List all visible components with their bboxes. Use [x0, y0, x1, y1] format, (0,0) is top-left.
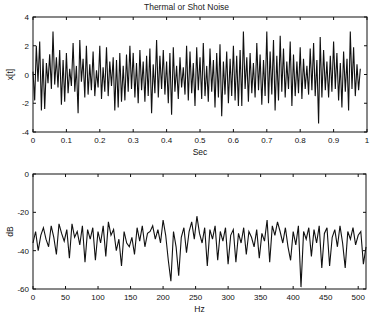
x-tick-label: 0.9	[328, 136, 340, 145]
x-tick-label: 300	[221, 293, 235, 302]
y-tick-label: -2	[22, 99, 30, 108]
x-tick-label: 250	[189, 293, 203, 302]
data-line	[33, 31, 360, 123]
x-tick-label: 350	[254, 293, 268, 302]
x-tick-label: 0	[31, 136, 36, 145]
x-tick-label: 1	[365, 136, 370, 145]
y-tick-label: -40	[17, 247, 29, 256]
frequency-domain-plot: 0501001502002503003504004505000-20-40-60…	[5, 170, 366, 314]
x-axis-label: Hz	[194, 304, 204, 314]
x-tick-label: 0.7	[261, 136, 273, 145]
y-axis-label: dB	[5, 226, 15, 237]
y-tick-label: 4	[25, 13, 30, 22]
x-tick-label: 100	[91, 293, 105, 302]
y-tick-label: 0	[25, 170, 30, 179]
y-tick-label: 0	[25, 71, 30, 80]
x-tick-label: 500	[352, 293, 366, 302]
x-tick-label: 450	[319, 293, 333, 302]
x-tick-label: 0.3	[128, 136, 140, 145]
y-axis-label: x[t]	[5, 69, 15, 80]
x-tick-label: 0.8	[295, 136, 307, 145]
y-tick-label: -60	[17, 285, 29, 294]
chart-canvas: 00.10.20.30.40.50.60.70.80.91420-2-4Secx…	[0, 0, 373, 326]
x-tick-label: 50	[61, 293, 70, 302]
y-tick-label: -4	[22, 128, 30, 137]
x-tick-label: 400	[286, 293, 300, 302]
data-line	[33, 216, 366, 287]
x-tick-label: 0.5	[194, 136, 206, 145]
x-tick-label: 0.6	[228, 136, 240, 145]
x-axis-label: Sec	[193, 147, 208, 157]
y-tick-label: -20	[17, 208, 29, 217]
y-tick-label: 2	[25, 42, 30, 51]
x-tick-label: 200	[156, 293, 170, 302]
x-tick-label: 0	[31, 293, 36, 302]
x-tick-label: 0.4	[161, 136, 173, 145]
x-tick-label: 150	[124, 293, 138, 302]
x-tick-label: 0.1	[61, 136, 73, 145]
time-domain-plot: 00.10.20.30.40.50.60.70.80.91420-2-4Secx…	[5, 13, 370, 157]
x-tick-label: 0.2	[94, 136, 106, 145]
